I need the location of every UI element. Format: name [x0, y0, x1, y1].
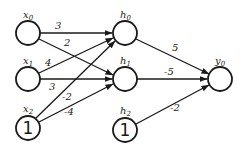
- output-layer: y0: [208, 55, 232, 91]
- label-h0: h0: [120, 9, 131, 22]
- neural-network-diagram: 3 2 4 3 -2 -4 5 -5 -2 x0 x1 x2 1 h0: [0, 0, 245, 149]
- weight-h1-y0: -5: [164, 66, 174, 77]
- weight-h0-y0: 5: [172, 42, 178, 53]
- label-x0: x0: [23, 9, 34, 22]
- label-h2: h2: [120, 105, 131, 118]
- weight-h2-y0: -2: [170, 102, 180, 113]
- node-h1: h1: [113, 55, 137, 91]
- node-h0: h0: [113, 9, 137, 45]
- weight-x0-h1: 2: [63, 37, 70, 48]
- label-x2: x2: [23, 103, 34, 116]
- node-h2-bias: h2 1: [113, 105, 137, 142]
- weight-x2-h1: -4: [64, 106, 74, 117]
- bias-value-x2: 1: [23, 118, 34, 138]
- weight-x1-h1: 3: [49, 81, 55, 92]
- label-y0: y0: [214, 55, 226, 68]
- hidden-layer: h0 h1 h2 1: [113, 9, 137, 142]
- weight-x0-h0: 3: [55, 20, 61, 31]
- node-x0: x0: [16, 9, 40, 45]
- bias-value-h2: 1: [120, 120, 131, 140]
- label-h1: h1: [120, 55, 131, 68]
- node-y0: y0: [208, 55, 232, 91]
- input-layer: x0 x1 x2 1: [16, 9, 40, 140]
- weight-x1-h0: 4: [44, 57, 51, 68]
- weight-x2-h0: -2: [62, 91, 72, 102]
- weight-labels: 3 2 4 3 -2 -4 5 -5 -2: [44, 20, 180, 117]
- node-x1: x1: [16, 55, 40, 91]
- label-x1: x1: [23, 55, 33, 68]
- node-x2-bias: x2 1: [16, 103, 40, 140]
